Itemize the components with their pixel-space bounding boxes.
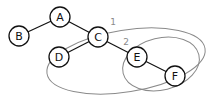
node-d: D (49, 47, 69, 67)
node-e: E (127, 47, 147, 67)
node-d-label: D (55, 51, 63, 64)
node-f: F (165, 66, 185, 86)
group-label-1: 1 (110, 17, 116, 27)
node-e-label: E (134, 51, 141, 64)
node-c-label: C (94, 31, 102, 44)
group-label-2: 2 (123, 37, 129, 47)
node-f-label: F (172, 70, 178, 83)
tree-diagram: 1 2 A B C D E F (0, 0, 211, 101)
node-a: A (50, 7, 70, 27)
node-b: B (9, 26, 29, 46)
node-a-label: A (56, 11, 64, 24)
node-b-label: B (15, 30, 23, 43)
node-c: C (88, 27, 108, 47)
